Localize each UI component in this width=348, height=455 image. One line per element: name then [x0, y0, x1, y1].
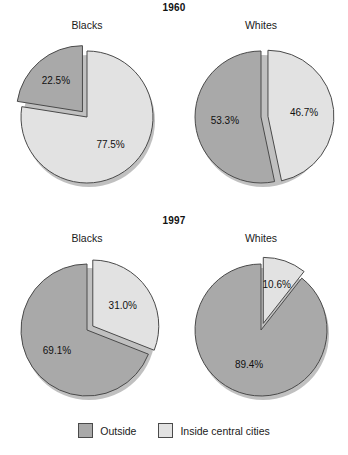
pie-svg-1960-blacks: 22.5%77.5%: [0, 33, 174, 201]
pie-1960-blacks: 22.5%77.5%: [0, 33, 174, 201]
slice-value-label: 77.5%: [96, 139, 124, 150]
chart-legend: Outside Inside central cities: [0, 423, 348, 438]
panel-1960-whites: Whites 53.3%46.7%: [174, 18, 348, 201]
pie-svg-1997-blacks: 69.1%31.0%: [0, 246, 174, 414]
legend-item-inside: Inside central cities: [158, 423, 269, 438]
pie-chart-figure: 1960 Blacks 22.5%77.5% Whites 53.3%46.7%…: [0, 0, 348, 455]
pie-slice-outside[interactable]: [195, 264, 327, 396]
pie-svg-1960-whites: 53.3%46.7%: [174, 33, 348, 201]
pie-1997-blacks: 69.1%31.0%: [0, 246, 174, 414]
slice-value-label: 53.3%: [211, 115, 239, 126]
panel-label-1960-whites: Whites: [174, 18, 348, 33]
panel-label-1997-whites: Whites: [174, 231, 348, 246]
pie-1997-whites: 89.4%10.6%: [174, 246, 348, 414]
slice-value-label: 89.4%: [235, 359, 263, 370]
slice-value-label: 69.1%: [43, 345, 71, 356]
pie-1960-whites: 53.3%46.7%: [174, 33, 348, 201]
panel-1997-blacks: Blacks 69.1%31.0%: [0, 231, 174, 414]
slice-value-label: 31.0%: [109, 300, 137, 311]
pie-svg-1997-whites: 89.4%10.6%: [174, 246, 348, 414]
legend-swatch-inside: [158, 423, 173, 438]
panel-label-1997-blacks: Blacks: [0, 231, 174, 246]
legend-swatch-outside: [78, 423, 93, 438]
legend-label-outside: Outside: [100, 425, 136, 437]
panel-1960-blacks: Blacks 22.5%77.5%: [0, 18, 174, 201]
slice-value-label: 10.6%: [263, 279, 291, 290]
legend-label-inside: Inside central cities: [180, 425, 269, 437]
year-heading-1997: 1997: [0, 215, 348, 226]
slice-value-label: 22.5%: [42, 75, 70, 86]
year-heading-1960: 1960: [0, 2, 348, 13]
panel-1997-whites: Whites 89.4%10.6%: [174, 231, 348, 414]
legend-item-outside: Outside: [78, 423, 136, 438]
panel-label-1960-blacks: Blacks: [0, 18, 174, 33]
slice-value-label: 46.7%: [290, 107, 318, 118]
